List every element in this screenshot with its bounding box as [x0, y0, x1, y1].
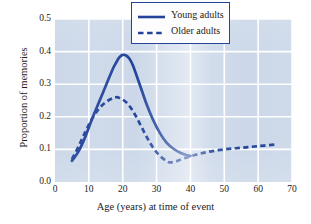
x-tick-label: 40 — [178, 185, 202, 195]
x-tick-label: 20 — [111, 185, 135, 195]
x-tick-label: 70 — [280, 185, 304, 195]
legend-line-solid-icon — [138, 9, 165, 21]
legend-line-dashed-icon — [138, 25, 165, 37]
y-axis-title: Proportion of memories — [18, 23, 29, 173]
x-tick-label: 50 — [212, 185, 236, 195]
x-tick-label: 60 — [246, 185, 270, 195]
legend-label-older-adults: Older adults — [171, 26, 220, 36]
legend-entry-young-adults: Young adults — [138, 7, 224, 23]
x-axis-title: Age (years) at time of event — [0, 201, 311, 212]
chart-figure: 0.00.10.20.30.40.5 010203040506070 Propo… — [0, 0, 311, 224]
x-tick-label: 0 — [43, 185, 67, 195]
legend-label-young-adults: Young adults — [171, 10, 224, 20]
legend: Young adults Older adults — [131, 2, 230, 44]
x-tick-label: 10 — [77, 185, 101, 195]
legend-entry-older-adults: Older adults — [138, 23, 224, 39]
x-tick-label: 30 — [145, 185, 169, 195]
series-line-older-adults — [72, 97, 275, 162]
